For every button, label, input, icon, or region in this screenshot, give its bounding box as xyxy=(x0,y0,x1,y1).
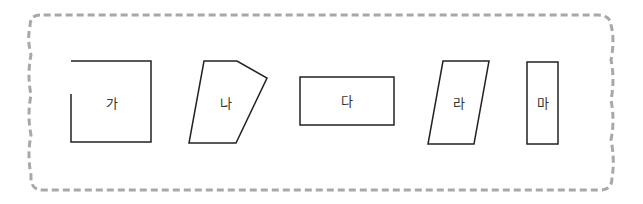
label-na: 나 xyxy=(220,96,232,111)
figure: 가 나 다 라 마 xyxy=(0,0,643,204)
label-ra: 라 xyxy=(453,96,465,111)
label-ma: 마 xyxy=(537,96,549,111)
label-da: 다 xyxy=(341,94,353,109)
label-ga: 가 xyxy=(106,96,118,111)
